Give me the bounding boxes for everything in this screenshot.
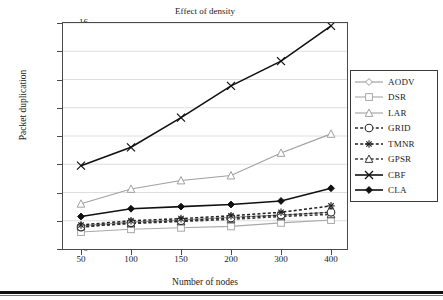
- legend-marker-tmnr: [354, 137, 384, 151]
- x-axis-title: Number of nodes: [60, 277, 350, 287]
- x-tick-label: 50: [61, 255, 101, 264]
- x-tick-mark: [81, 250, 82, 255]
- x-tick-label: 400: [311, 255, 351, 264]
- figure-bottom-rule: [0, 291, 443, 294]
- legend-item-aodv[interactable]: AODV: [351, 74, 437, 90]
- chart-figure: Effect of density Packet duplication Num…: [0, 0, 443, 300]
- legend-item-lar[interactable]: LAR: [351, 105, 437, 121]
- chart-title: Effect of density: [60, 6, 350, 16]
- legend-marker-dsr: [354, 90, 384, 104]
- legend-item-tmnr[interactable]: TMNR: [351, 136, 437, 152]
- x-tick-label: 200: [211, 255, 251, 264]
- plot-area: [62, 22, 348, 250]
- y-axis-title: Packet duplication: [18, 30, 28, 180]
- x-tick-mark: [281, 250, 282, 255]
- plot-svg: [63, 23, 347, 249]
- legend-item-gpsr[interactable]: GPSR: [351, 152, 437, 168]
- legend-label-tmnr: TMNR: [384, 139, 415, 149]
- legend-marker-gpsr: [354, 152, 384, 166]
- legend-label-gpsr: GPSR: [384, 154, 411, 164]
- legend-label-cla: CLA: [384, 185, 407, 195]
- legend-label-grid: GRID: [384, 123, 411, 133]
- x-tick-mark: [331, 250, 332, 255]
- x-tick-label: 100: [111, 255, 151, 264]
- x-tick-mark: [181, 250, 182, 255]
- legend-label-lar: LAR: [384, 108, 407, 118]
- figure-bottom-rule-thin: [0, 295, 443, 296]
- legend-label-aodv: AODV: [384, 77, 415, 87]
- x-tick-label: 300: [261, 255, 301, 264]
- chart-legend: AODVDSRLARGRIDTMNRGPSRCBFCLA: [350, 70, 438, 202]
- legend-marker-cla: [354, 183, 384, 197]
- x-tick-label: 150: [161, 255, 201, 264]
- legend-label-cbf: CBF: [384, 170, 406, 180]
- legend-marker-aodv: [354, 75, 384, 89]
- legend-label-dsr: DSR: [384, 92, 406, 102]
- legend-marker-cbf: [354, 168, 384, 182]
- x-tick-mark: [231, 250, 232, 255]
- legend-item-cla[interactable]: CLA: [351, 183, 437, 199]
- legend-item-dsr[interactable]: DSR: [351, 90, 437, 106]
- legend-item-grid[interactable]: GRID: [351, 121, 437, 137]
- legend-marker-grid: [354, 121, 384, 135]
- x-tick-mark: [131, 250, 132, 255]
- legend-item-cbf[interactable]: CBF: [351, 167, 437, 183]
- legend-marker-lar: [354, 106, 384, 120]
